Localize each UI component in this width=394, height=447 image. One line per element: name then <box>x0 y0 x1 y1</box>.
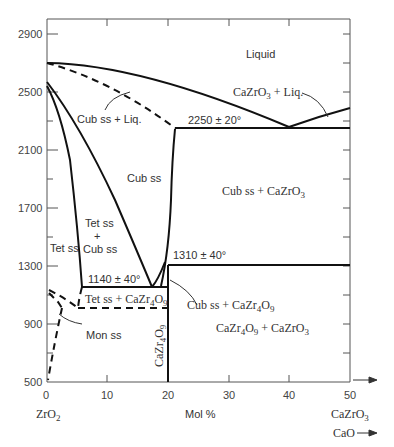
cao-label: CaO <box>333 426 355 440</box>
x-axis-arrow <box>353 377 377 383</box>
label-cub-ss: Cub ss <box>127 172 162 184</box>
top-ticks <box>107 19 289 26</box>
svg-text:40: 40 <box>283 389 295 401</box>
mon-ss-boundary <box>48 308 62 380</box>
cao-arrow <box>357 430 377 436</box>
cazro3-label: CaZrO3 <box>331 407 369 423</box>
label-tet-cub-3: Cub ss <box>83 243 118 255</box>
svg-text:30: 30 <box>223 389 235 401</box>
arrow-cub-liq <box>105 92 130 110</box>
label-liquid: Liquid <box>246 48 275 60</box>
label-cub-cazr4o9: Cub ss + CaZr4O9 <box>187 298 275 314</box>
tet-left-lower <box>78 287 82 308</box>
svg-text:500: 500 <box>24 376 42 388</box>
bottom-ticks <box>107 375 289 382</box>
label-tet-cazr4o9: Tet ss + CaZr4O9 <box>85 292 168 308</box>
label-cazr4o9-vertical: CaZr4O9 <box>152 324 168 367</box>
liquidus-right <box>289 108 350 127</box>
svg-text:900: 900 <box>24 318 42 330</box>
right-ticks <box>343 34 350 353</box>
x-tick-labels: 0 10 20 30 40 50 <box>43 389 356 401</box>
svg-text:20: 20 <box>162 389 174 401</box>
cub-solvus-right <box>161 129 175 286</box>
label-2250: 2250 ± 20° <box>188 114 241 126</box>
label-cazr4o9-cazro3: CaZr4O9 + CaZrO3 <box>216 321 309 337</box>
label-cazro3-liq: CaZrO3 + Liq. <box>233 85 303 101</box>
svg-text:0: 0 <box>43 389 49 401</box>
zro2-label: ZrO2 <box>36 407 61 423</box>
phase-diagram: 2900 2500 2100 1700 1300 900 500 0 10 20… <box>0 0 394 447</box>
x-axis-label: Mol % <box>185 408 216 420</box>
y-tick-labels: 2900 2500 2100 1700 1300 900 500 <box>18 28 42 388</box>
svg-text:10: 10 <box>101 389 113 401</box>
arrow-cazro3-liq <box>302 93 328 117</box>
svg-text:2500: 2500 <box>18 86 42 98</box>
label-1310: 1310 ± 40° <box>173 249 226 261</box>
label-mon-ss: Mon ss <box>86 329 122 341</box>
svg-text:50: 50 <box>344 389 356 401</box>
svg-text:2900: 2900 <box>18 28 42 40</box>
label-cub-liq: Cub ss + Liq. <box>77 113 142 125</box>
label-tet-cub-1: Tet ss <box>85 217 114 229</box>
label-tet-ss: Tet ss <box>50 242 79 254</box>
svg-text:1300: 1300 <box>18 260 42 272</box>
left-ticks <box>47 34 58 353</box>
label-tet-cub-2: + <box>94 230 100 242</box>
svg-text:1700: 1700 <box>18 202 42 214</box>
arrow-mon-ss <box>59 314 82 324</box>
mon-tet-upper <box>49 290 78 308</box>
label-cub-cazro3: Cub ss + CaZrO3 <box>222 184 305 200</box>
label-1140: 1140 ± 40° <box>88 273 140 285</box>
svg-text:2100: 2100 <box>18 144 42 156</box>
